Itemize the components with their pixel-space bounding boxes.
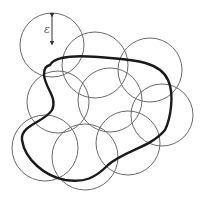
epsilon-cover-diagram: ε: [0, 0, 204, 201]
covering-circles: [12, 13, 193, 190]
epsilon-radius-label: ε: [44, 24, 50, 35]
epsilon-circle: [131, 84, 193, 146]
diagram-canvas: [0, 0, 204, 201]
